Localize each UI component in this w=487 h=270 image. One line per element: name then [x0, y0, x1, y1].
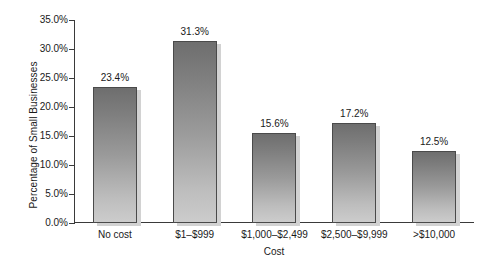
- y-axis-tick-mark: [69, 194, 75, 195]
- y-axis-tick-mark: [69, 223, 75, 224]
- bar-group: 15.6%: [235, 20, 315, 223]
- bar-rect: [412, 151, 456, 224]
- x-axis-tick-label: No cost: [98, 229, 132, 240]
- y-axis-tick-label: 5.0%: [26, 189, 68, 199]
- y-axis-tick-mark: [69, 165, 75, 166]
- y-axis-tick-mark: [69, 78, 75, 79]
- bar-value-label: 15.6%: [260, 119, 288, 129]
- bar-value-label: 12.5%: [420, 137, 448, 147]
- y-axis-tick-labels: 0.0%5.0%10.0%15.0%20.0%25.0%30.0%35.0%: [24, 0, 68, 270]
- y-axis-tick-label: 25.0%: [26, 73, 68, 83]
- x-axis-tick-label: >$10,000: [413, 229, 455, 240]
- bar-group: 17.2%: [314, 20, 394, 223]
- x-axis-tick-label: $2,500–$9,999: [321, 229, 388, 240]
- x-axis-tick-label: $1–$999: [175, 229, 214, 240]
- y-axis-tick-mark: [69, 107, 75, 108]
- bar-rect: [252, 133, 296, 223]
- x-axis-title: Cost: [74, 246, 474, 257]
- bar-value-label: 31.3%: [181, 27, 209, 37]
- x-axis-title-label: Cost: [264, 246, 285, 257]
- y-axis-tick-mark: [69, 49, 75, 50]
- bar-group: 12.5%: [394, 20, 474, 223]
- bar-group: 23.4%: [75, 20, 155, 223]
- y-axis-tick-mark: [69, 20, 75, 21]
- bar: 17.2%: [332, 123, 376, 223]
- bar-value-label: 17.2%: [340, 109, 368, 119]
- bar-rect: [332, 123, 376, 223]
- bar: 31.3%: [173, 41, 217, 223]
- bar: 23.4%: [93, 87, 137, 223]
- plot-area: 23.4%31.3%15.6%17.2%12.5%: [75, 20, 474, 223]
- bar-value-label: 23.4%: [101, 73, 129, 83]
- bar-rect: [93, 87, 137, 223]
- y-axis-tick-label: 35.0%: [26, 15, 68, 25]
- y-axis-tick-label: 20.0%: [26, 102, 68, 112]
- bar: 12.5%: [412, 151, 456, 224]
- bar-group: 31.3%: [155, 20, 235, 223]
- bar: 15.6%: [252, 133, 296, 223]
- y-axis-tick-label: 10.0%: [26, 160, 68, 170]
- y-axis-tick-label: 0.0%: [26, 218, 68, 228]
- bar-chart: Percentage of Small Businesses 0.0%5.0%1…: [0, 0, 487, 270]
- bar-rect: [173, 41, 217, 223]
- y-axis-tick-label: 30.0%: [26, 44, 68, 54]
- x-axis-tick-label: $1,000–$2,499: [241, 229, 308, 240]
- y-axis-tick-label: 15.0%: [26, 131, 68, 141]
- y-axis-tick-mark: [69, 136, 75, 137]
